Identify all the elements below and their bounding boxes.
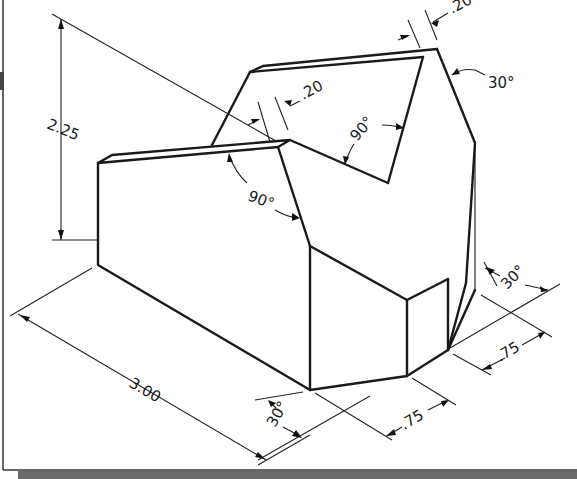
label-front-width: .75 (397, 406, 427, 434)
label-angle-v-notch: 90° (346, 113, 377, 145)
label-angle-left-notch: 90° (246, 187, 277, 213)
label-angle-top-right: 30° (488, 74, 515, 92)
dim-angle-bottom-left: 30° (255, 392, 370, 460)
dim-chamfer-right: .20 (398, 0, 475, 48)
label-angle-bottom-right: 30° (497, 261, 529, 293)
label-chamfer-right: .20 (445, 0, 475, 18)
dim-angle-left-notch: 90° (227, 153, 300, 221)
object-outline (98, 49, 475, 390)
frame-tick (0, 72, 4, 90)
bottom-bar (18, 471, 577, 479)
label-chamfer-left: .20 (296, 76, 326, 103)
isometric-drawing: 2.25 3.00 .20 .20 30° (0, 0, 577, 479)
label-length: 3.00 (126, 374, 164, 406)
dim-height: 2.25 (45, 14, 276, 240)
dim-length: 3.00 (10, 268, 310, 465)
label-angle-bottom-left: 30° (263, 398, 292, 430)
label-height: 2.25 (45, 115, 83, 144)
dim-angle-top-right: 30° (452, 68, 515, 92)
